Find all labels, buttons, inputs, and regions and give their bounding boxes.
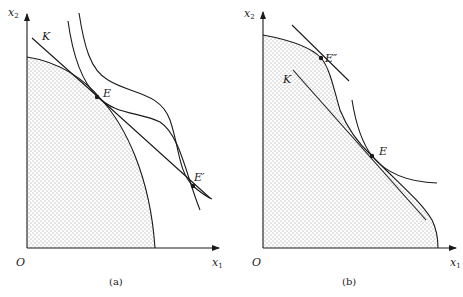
point-e-prime-label-a: E′ [193,171,205,184]
x-axis-label-a: x1 [212,256,223,270]
point-e-b [370,154,374,158]
panel-b: x2 x1 O K E″ E (b) [244,7,461,287]
production-set-a [27,57,155,248]
point-e-label-a: E [102,87,111,100]
point-e-label-b: E [378,145,387,158]
origin-label-a: O [16,256,25,269]
y-axis-label-a: x2 [8,6,19,20]
point-e-double-prime-label-b: E″ [324,52,338,65]
caption-b: (b) [342,276,356,287]
point-e-a [95,95,99,99]
point-e-double-prime-b [319,56,323,60]
origin-label-b: O [252,256,261,269]
diagram-canvas: x2 x1 O K E E′ (a) x2 x1 O K E″ E (b) [0,0,463,297]
point-e-prime-a [191,184,195,188]
x-axis-label-b: x1 [450,256,461,270]
line-k-label-a: K [41,30,51,43]
panel-a: x2 x1 O K E E′ (a) [8,6,223,287]
production-set-b [263,35,438,248]
y-axis-label-b: x2 [244,7,255,21]
caption-a: (a) [109,276,123,287]
line-k-label-b: K [282,73,292,86]
